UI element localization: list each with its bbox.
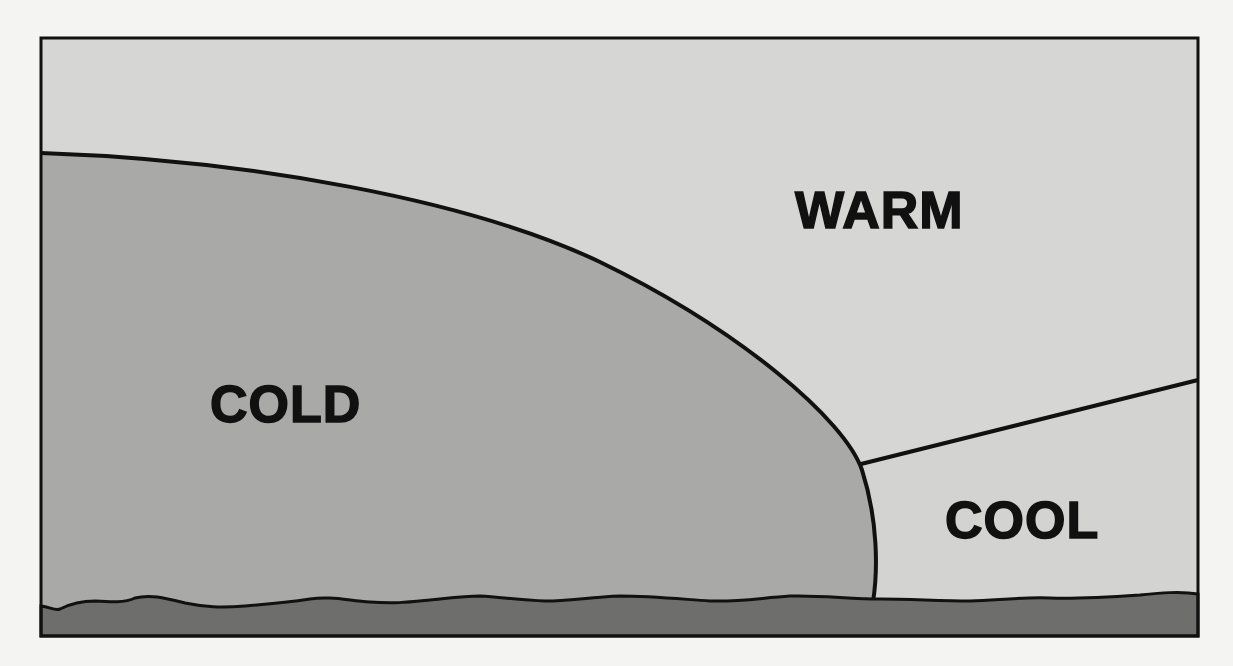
warm-air-label: WARM (795, 184, 964, 236)
cool-air-label: COOL (945, 494, 1099, 546)
cold-air-label: COLD (210, 378, 361, 430)
air-mass-diagram (0, 0, 1233, 666)
